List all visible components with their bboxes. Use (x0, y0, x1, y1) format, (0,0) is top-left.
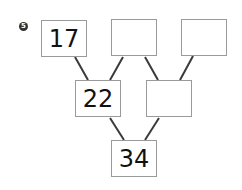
box-top-left: 17 (41, 20, 87, 57)
box-top-right[interactable] (181, 19, 227, 56)
box-middle-right[interactable] (146, 80, 192, 117)
problem-number-badge: 5 (19, 22, 28, 31)
box-top-middle[interactable] (111, 19, 157, 56)
box-middle-left: 22 (75, 80, 121, 117)
box-bottom: 34 (111, 140, 157, 177)
